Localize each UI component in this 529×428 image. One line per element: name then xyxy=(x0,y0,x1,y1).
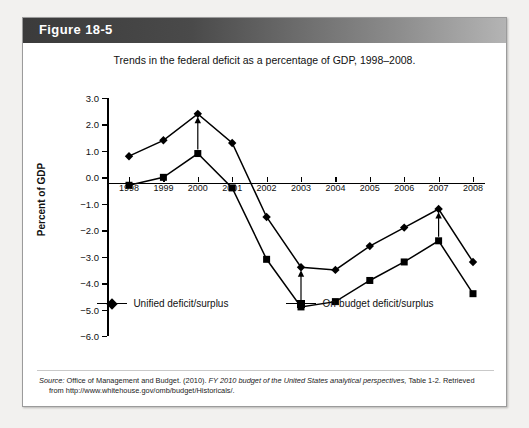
y-axis-tick-label: −4.0 xyxy=(80,278,99,289)
y-axis-tick xyxy=(102,336,107,337)
diamond-marker xyxy=(434,205,442,213)
chart-area: Percent of GDP 3.02.01.00.0−1.0−2.0−3.0−… xyxy=(23,76,508,366)
y-axis-title: Percent of GDP xyxy=(36,163,47,236)
figure-card: Figure 18-5 Trends in the federal defici… xyxy=(22,17,507,407)
figure-header-bar: Figure 18-5 xyxy=(23,18,506,43)
source-note: Source: Office of Management and Budget.… xyxy=(39,376,494,396)
page-background: Figure 18-5 Trends in the federal defici… xyxy=(0,0,529,428)
y-axis-tick-label: 0.0 xyxy=(86,172,99,183)
diamond-marker xyxy=(469,258,477,266)
legend-label: Unified deficit/surplus xyxy=(133,298,228,309)
legend-entry: Unified deficit/surplus xyxy=(97,298,228,309)
source-italic-title: FY 2010 budget of the United States anal… xyxy=(207,376,407,385)
square-marker xyxy=(263,256,270,263)
figure-title: Trends in the federal deficit as a perce… xyxy=(23,54,506,66)
legend-label: On-budget deficit/surplus xyxy=(322,298,433,309)
square-marker xyxy=(126,182,133,189)
square-marker xyxy=(470,290,477,297)
legend-entry: On-budget deficit/surplus xyxy=(286,298,433,309)
source-url-line: from http://www.whitehouse.gov/omb/budge… xyxy=(49,386,494,396)
source-prefix: Source: xyxy=(39,376,64,385)
gap-arrow-annotation xyxy=(435,212,441,237)
y-axis-tick-label: 3.0 xyxy=(86,93,99,104)
y-axis-tick-label: 2.0 xyxy=(86,119,99,130)
gap-arrow-annotation xyxy=(195,117,201,150)
square-marker xyxy=(286,299,316,309)
source-divider xyxy=(37,370,494,371)
diamond-marker xyxy=(400,223,408,231)
square-marker xyxy=(160,174,167,181)
y-axis-tick-label: 1.0 xyxy=(86,145,99,156)
square-marker xyxy=(435,237,442,244)
y-axis-tick-label: −6.0 xyxy=(80,331,99,342)
y-axis-tick-label: −2.0 xyxy=(80,225,99,236)
diamond-marker xyxy=(262,213,270,221)
square-marker xyxy=(366,277,373,284)
series-line xyxy=(129,114,473,270)
square-marker xyxy=(401,258,408,265)
y-axis-tick-label: −3.0 xyxy=(80,251,99,262)
square-marker xyxy=(194,150,201,157)
diamond-marker xyxy=(125,152,133,160)
figure-number-label: Figure 18-5 xyxy=(39,22,113,37)
source-text-after: Table 1-2. Retrieved xyxy=(406,376,474,385)
square-marker xyxy=(229,184,236,191)
source-text-before: Office of Management and Budget. (2010). xyxy=(64,376,206,385)
diamond-marker xyxy=(97,299,127,309)
diamond-marker xyxy=(297,263,305,271)
chart-legend: Unified deficit/surplusOn-budget deficit… xyxy=(23,298,508,309)
y-axis-tick-label: −1.0 xyxy=(80,198,99,209)
